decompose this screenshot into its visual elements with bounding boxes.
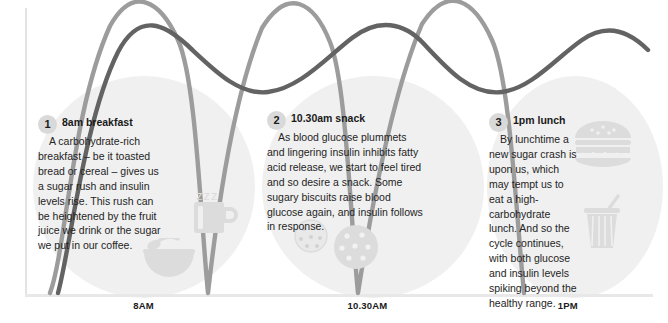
step-body-text: By lunchtime a new sugar crash is upon u… [489, 133, 577, 309]
step-body: By lunchtime a new sugar crash is upon u… [489, 132, 579, 311]
step-header: 3 1pm lunch [489, 112, 579, 132]
step-number-badge: 2 [267, 111, 286, 130]
step-body: A carbohydrate-rich breakfast – be it to… [38, 134, 164, 253]
step-snack: 2 10.30am snack As blood glucose plummet… [267, 110, 426, 234]
step-title: 1pm lunch [513, 112, 566, 127]
step-body-text: A carbohydrate-rich breakfast – be it to… [38, 135, 161, 251]
coffee-mug-icon [192, 198, 238, 242]
soda-cup-icon [578, 194, 630, 258]
x-tick-label-8am: 8AM [133, 300, 154, 311]
step-header: 2 10.30am snack [267, 110, 426, 130]
x-tick-label-1pm: 1PM [558, 300, 578, 311]
y-axis-line [25, 8, 27, 296]
x-tick-label-1030am: 10.30AM [347, 300, 387, 311]
step-breakfast: 1 8am breakfast A carbohydrate-rich brea… [38, 114, 164, 253]
step-header: 1 8am breakfast [38, 114, 164, 134]
step-body-text: As blood glucose plummets and lingering … [267, 131, 423, 232]
step-title: 8am breakfast [62, 114, 133, 129]
step-number-badge: 1 [38, 115, 57, 134]
hamburger-icon [572, 118, 634, 174]
infographic-canvas: zzz [0, 0, 668, 323]
step-title: 10.30am snack [291, 110, 365, 125]
step-lunch: 3 1pm lunch By lunchtime a new sugar cra… [489, 112, 579, 311]
step-number-badge: 3 [489, 113, 508, 132]
step-body: As blood glucose plummets and lingering … [267, 130, 426, 234]
